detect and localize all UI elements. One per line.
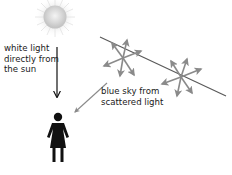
person-icon: [47, 113, 69, 162]
direct-light-label-line-2: directly from: [4, 54, 59, 65]
scatter-point-2-icon: [162, 59, 201, 96]
scattered-light-label-line-1: blue sky from: [101, 86, 163, 97]
direct-light-label-line-1: white light: [4, 43, 59, 54]
scattered-light-label-line-2: scattered light: [101, 97, 163, 108]
scatter-point-1-icon: [104, 40, 141, 76]
direct-light-label-line-3: the sun: [4, 64, 59, 75]
direct-light-label: white light directly from the sun: [4, 43, 59, 75]
sun-icon: [35, 0, 75, 37]
scattered-light-label: blue sky from scattered light: [101, 86, 163, 107]
